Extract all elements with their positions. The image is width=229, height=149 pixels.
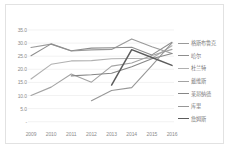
series-line (91, 43, 172, 101)
legend-line-swatch (178, 68, 189, 69)
legend-label: 杜兰特 (191, 65, 206, 71)
legend-label: 莱昂纳德 (191, 91, 211, 97)
y-axis-tick-label: 35.0 (5, 27, 27, 33)
legend-label: 哈尔 (191, 53, 201, 59)
x-axis-tick-label: 2014 (121, 131, 143, 137)
legend-label: 戴维斯 (191, 78, 206, 84)
legend-item[interactable]: 杜兰特 (178, 62, 226, 75)
y-axis-tick-label: 20.0 (5, 66, 27, 72)
legend-item[interactable]: 格斯布鲁克 (178, 37, 226, 50)
legend-line-swatch (178, 106, 189, 107)
legend-item[interactable]: 莱昂纳德 (178, 87, 226, 100)
legend-item[interactable]: 詹姆斯 (178, 113, 226, 126)
legend-item[interactable]: 戴维斯 (178, 75, 226, 88)
legend-line-swatch (178, 55, 189, 56)
legend-line-swatch (178, 43, 189, 44)
series-line (112, 50, 172, 85)
x-axis-tick-label: 2013 (101, 131, 123, 137)
x-axis-tick-label: 2010 (40, 131, 62, 137)
series-line (31, 42, 172, 55)
y-axis-tick-label: 10.0 (5, 93, 27, 99)
series-line (31, 39, 172, 54)
series-lines (31, 39, 172, 101)
legend-label: 詹姆斯 (191, 116, 206, 122)
y-axis-tick-label: 25.0 (5, 53, 27, 59)
y-axis-tick-label: 5.0 (5, 106, 27, 112)
chart-card: 35.030.025.020.015.010.05.0- 20092010201… (0, 0, 229, 149)
y-axis-tick-label: 30.0 (5, 40, 27, 46)
legend-item[interactable]: 哈尔 (178, 50, 226, 63)
x-axis-tick-label: 2015 (141, 131, 163, 137)
legend-line-swatch (178, 93, 189, 94)
legend-line-swatch (178, 81, 189, 82)
x-axis-tick-label: 2011 (60, 131, 82, 137)
y-axis-tick-label: - (5, 119, 27, 125)
legend-label: 库里 (191, 103, 201, 109)
x-axis-tick-label: 2009 (20, 131, 42, 137)
chart-legend: 格斯布鲁克哈尔杜兰特戴维斯莱昂纳德库里詹姆斯 (178, 37, 226, 125)
gridlines (28, 30, 174, 122)
x-axis-tick-label: 2012 (80, 131, 102, 137)
legend-item[interactable]: 库里 (178, 100, 226, 113)
x-axis-tick-label: 2016 (161, 131, 183, 137)
legend-label: 格斯布鲁克 (191, 40, 216, 46)
y-axis-tick-label: 15.0 (5, 79, 27, 85)
legend-line-swatch (178, 118, 189, 119)
